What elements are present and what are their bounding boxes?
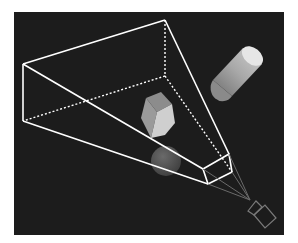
- frustum-diagram: [0, 0, 298, 243]
- sphere-object: [151, 146, 181, 176]
